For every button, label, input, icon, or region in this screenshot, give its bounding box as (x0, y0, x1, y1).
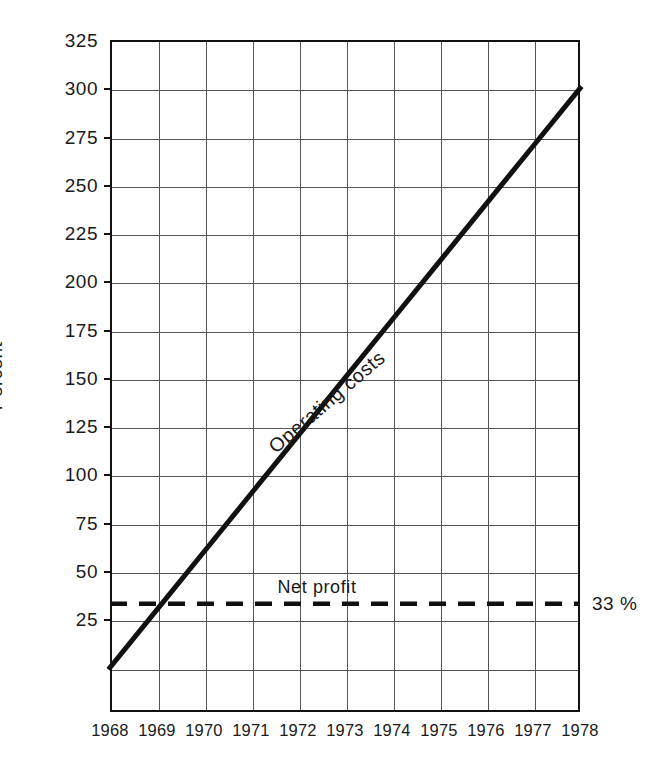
y-tick-label-250: 250 (34, 175, 98, 194)
y-tick-label-25: 25 (34, 610, 98, 629)
y-tick-label-275: 275 (34, 127, 98, 146)
y-tick-label-225: 225 (34, 224, 98, 243)
x-tick-label-1978: 1978 (545, 722, 615, 739)
y-tick-label-200: 200 (34, 272, 98, 291)
y-axis-title: Percent (0, 306, 7, 446)
chart-figure: Percent 32530027525022520017515012510075… (0, 0, 664, 775)
y-tick-label-300: 300 (34, 79, 98, 98)
y-tick-label-50: 50 (34, 562, 98, 581)
y-tick-label-150: 150 (34, 368, 98, 387)
y-tick-label-75: 75 (34, 513, 98, 532)
y-tick-label-325: 325 (34, 31, 98, 50)
net-profit-label: Net profit (277, 577, 356, 598)
y-tick-label-175: 175 (34, 320, 98, 339)
y-tick-label-100: 100 (34, 465, 98, 484)
y-tick-label-125: 125 (34, 417, 98, 436)
net-profit-value-label: 33 % (592, 593, 637, 615)
